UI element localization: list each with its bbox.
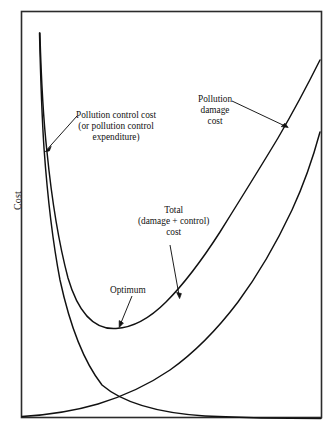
annotation-pollution-control-cost: Pollution control cost (or pollution con…	[76, 110, 156, 144]
annotation-damage-line-3: cost	[198, 116, 232, 127]
annotation-damage-line-1: Pollution	[198, 94, 232, 105]
annotation-total-line-2: (damage + control)	[138, 216, 209, 227]
annotation-control-line-2: (or pollution control	[76, 121, 156, 132]
annotation-pollution-damage-cost: Pollution damage cost	[198, 94, 232, 128]
annotation-control-line-1: Pollution control cost	[76, 110, 156, 121]
annotation-total-cost: Total (damage + control) cost	[138, 205, 209, 239]
annotation-optimum: Optimum	[110, 285, 146, 296]
annotation-total-line-3: cost	[138, 227, 209, 238]
leader-pollution-control-cost	[45, 116, 77, 152]
annotation-optimum-label: Optimum	[110, 285, 146, 296]
leader-total-cost	[170, 245, 181, 299]
curve-total-cost	[40, 33, 320, 329]
annotation-total-line-1: Total	[138, 205, 209, 216]
pollution-cost-chart-figure: Cost Pollution control cost (or pollutio…	[0, 0, 333, 424]
leader-optimum	[119, 296, 132, 327]
leader-pollution-damage-cost	[232, 101, 288, 128]
annotation-damage-line-2: damage	[198, 105, 232, 116]
annotation-control-line-3: expenditure)	[76, 132, 156, 143]
